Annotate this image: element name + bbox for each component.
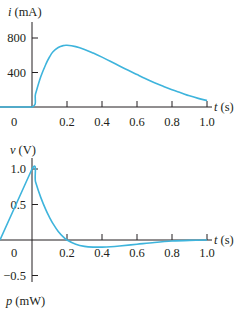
voltage-chart: 00.20.40.60.81.0−0.50.51.0 v(V) t(s) (0, 143, 234, 283)
x-tick-label: 0.4 (94, 115, 110, 129)
x-tick-label: 0.6 (129, 246, 145, 260)
x-tick-label: 1.0 (199, 115, 215, 129)
current-curve (0, 45, 207, 107)
x-tick-label: 0 (11, 115, 17, 129)
x-tick-label: 0.8 (164, 246, 180, 260)
current-axes: 00.20.40.60.81.0400800 (0, 22, 215, 129)
y-tick-label: 800 (7, 31, 26, 45)
current-y-label: i(mA) (8, 5, 42, 19)
voltage-axes: 00.20.40.60.81.0−0.50.51.0 (0, 158, 215, 283)
current-chart: 00.20.40.60.81.0400800 i(mA) t(s) (0, 5, 234, 129)
y-tick-label: 1.0 (10, 162, 26, 176)
current-x-label: t(s) (214, 100, 234, 114)
x-tick-label: 0.6 (129, 115, 145, 129)
voltage-curve (0, 166, 207, 247)
figure: 00.20.40.60.81.0400800 i(mA) t(s) 00.20.… (0, 0, 250, 310)
x-tick-label: 0.8 (164, 115, 180, 129)
x-tick-label: 0.4 (94, 246, 110, 260)
x-tick-label: 0 (11, 246, 17, 260)
x-tick-label: 0.2 (59, 115, 75, 129)
y-tick-label: −0.5 (3, 269, 26, 283)
y-tick-label: 400 (7, 66, 26, 80)
x-tick-label: 1.0 (199, 246, 215, 260)
voltage-x-label: t(s) (214, 233, 234, 247)
power-y-label: p(mW) (5, 294, 45, 308)
voltage-y-label: v(V) (10, 143, 36, 157)
x-tick-label: 0.2 (59, 246, 75, 260)
